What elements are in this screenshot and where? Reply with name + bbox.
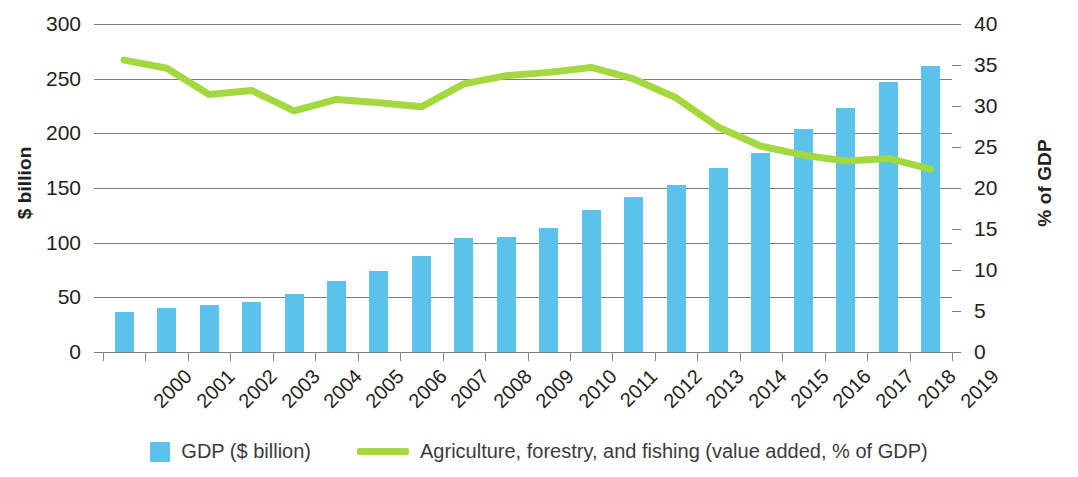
x-axis-tick-label: 2005 xyxy=(362,365,410,413)
y-axis-right-tickmark xyxy=(952,24,961,25)
y-axis-left-tickmark xyxy=(94,297,103,298)
y-axis-right-tickmark xyxy=(952,188,961,189)
x-axis-tickmark xyxy=(273,352,274,361)
bar xyxy=(836,108,855,352)
x-axis-tick-label: 2007 xyxy=(446,365,494,413)
bar xyxy=(200,305,219,352)
y-axis-right-tickmark xyxy=(952,270,961,271)
y-axis-left-tickmark xyxy=(94,133,103,134)
legend-line-swatch xyxy=(357,448,409,455)
y-axis-left-tick-label: 100 xyxy=(11,232,81,253)
x-axis-tickmark xyxy=(782,352,783,361)
x-axis-tickmark xyxy=(655,352,656,361)
gridline xyxy=(103,133,952,134)
x-axis-tick-label: 2010 xyxy=(574,365,622,413)
bar xyxy=(624,197,643,352)
x-axis-tick-label: 2015 xyxy=(786,365,834,413)
y-axis-left-tick-label: 300 xyxy=(11,13,81,34)
bar xyxy=(412,256,431,352)
bar xyxy=(794,129,813,352)
gridline xyxy=(103,79,952,80)
x-axis-tickmark xyxy=(485,352,486,361)
bar xyxy=(497,237,516,352)
y-axis-right-tick-label: 25 xyxy=(974,136,1044,157)
x-axis-tickmark xyxy=(910,352,911,361)
bar xyxy=(751,153,770,352)
y-axis-right-tickmark xyxy=(952,106,961,107)
gridline xyxy=(103,188,952,189)
x-axis-tickmark xyxy=(315,352,316,361)
y-axis-left-tickmark xyxy=(94,24,103,25)
y-axis-left-tickmark xyxy=(94,243,103,244)
x-axis-tickmark xyxy=(145,352,146,361)
x-axis-tick-label: 2002 xyxy=(234,365,282,413)
x-axis-tick-label: 2000 xyxy=(149,365,197,413)
x-axis-tickmark xyxy=(230,352,231,361)
bar xyxy=(921,66,940,352)
x-axis-tick-label: 2016 xyxy=(828,365,876,413)
x-axis-tick-label: 2006 xyxy=(404,365,452,413)
x-axis-tick-label: 2018 xyxy=(913,365,961,413)
bar xyxy=(454,238,473,352)
y-axis-right-tick-label: 10 xyxy=(974,259,1044,280)
legend-label-agriculture: Agriculture, forestry, and fishing (valu… xyxy=(420,440,928,463)
y-axis-left-tick-label: 50 xyxy=(11,286,81,307)
y-axis-right-tickmark xyxy=(952,229,961,230)
x-axis-tickmark xyxy=(358,352,359,361)
gridline xyxy=(103,297,952,298)
x-axis-tickmark xyxy=(612,352,613,361)
legend-bar-swatch xyxy=(150,442,170,462)
bar xyxy=(115,312,134,352)
y-axis-left-tick-label: 200 xyxy=(11,122,81,143)
x-axis-tick-label: 2001 xyxy=(192,365,240,413)
x-axis-tick-label: 2009 xyxy=(531,365,579,413)
legend-item-gdp: GDP ($ billion) xyxy=(150,440,311,463)
y-axis-left-tick-label: 0 xyxy=(11,341,81,362)
x-axis-tick-label: 2012 xyxy=(659,365,707,413)
y-axis-right-tickmark xyxy=(952,311,961,312)
x-axis-tick-label: 2004 xyxy=(319,365,367,413)
y-axis-right-tickmark xyxy=(952,352,961,353)
x-axis-tickmark xyxy=(825,352,826,361)
bar xyxy=(539,228,558,352)
y-axis-right-tick-label: 0 xyxy=(974,341,1044,362)
bar xyxy=(285,294,304,352)
y-axis-right-tickmark xyxy=(952,65,961,66)
bar xyxy=(157,308,176,352)
x-axis-tickmark xyxy=(400,352,401,361)
bar xyxy=(369,271,388,352)
x-axis-tick-label: 2011 xyxy=(616,365,663,412)
chart-container: $ billion % of GDP 050100150200250300 05… xyxy=(0,0,1078,477)
bar xyxy=(709,168,728,352)
y-axis-right-tickmark xyxy=(952,147,961,148)
x-axis-tick-label: 2017 xyxy=(871,365,919,413)
bar xyxy=(327,281,346,352)
legend-label-gdp: GDP ($ billion) xyxy=(181,440,311,463)
x-axis-tickmark xyxy=(570,352,571,361)
y-axis-left-tickmark xyxy=(94,79,103,80)
legend-item-agriculture: Agriculture, forestry, and fishing (valu… xyxy=(357,440,928,463)
y-axis-left-tick-label: 150 xyxy=(11,177,81,198)
x-axis-tickmark xyxy=(867,352,868,361)
x-axis-tickmark xyxy=(740,352,741,361)
y-axis-left-tick-label: 250 xyxy=(11,68,81,89)
y-axis-right-tick-label: 5 xyxy=(974,300,1044,321)
y-axis-right-tick-label: 40 xyxy=(974,13,1044,34)
x-axis-tickmark xyxy=(528,352,529,361)
bar xyxy=(879,82,898,352)
chart-legend: GDP ($ billion) Agriculture, forestry, a… xyxy=(0,440,1078,463)
y-axis-right-tick-label: 35 xyxy=(974,54,1044,75)
x-axis-tick-label: 2008 xyxy=(489,365,537,413)
y-axis-left-tickmark xyxy=(94,188,103,189)
x-axis-tickmark xyxy=(103,352,104,361)
x-axis-tickmark xyxy=(443,352,444,361)
bar xyxy=(667,185,686,352)
bar xyxy=(242,302,261,352)
y-axis-right-tick-label: 30 xyxy=(974,95,1044,116)
gridline xyxy=(103,243,952,244)
y-axis-left-tickmark xyxy=(94,352,103,353)
x-axis-tickmark xyxy=(697,352,698,361)
x-axis-tick-label: 2019 xyxy=(956,365,1004,413)
y-axis-right-tick-label: 15 xyxy=(974,218,1044,239)
gridline xyxy=(103,24,952,25)
